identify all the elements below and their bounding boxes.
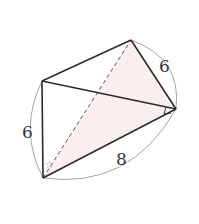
shaded-triangle-bcd — [43, 40, 176, 178]
angle-mark-d: ☆ — [45, 159, 54, 170]
geometry-diagram: ☆ 6 6 8 — [0, 0, 199, 224]
label-left-6: 6 — [22, 122, 33, 142]
label-right-6: 6 — [159, 56, 170, 76]
edge-ad — [42, 81, 43, 178]
label-bottom-8: 8 — [116, 149, 127, 169]
